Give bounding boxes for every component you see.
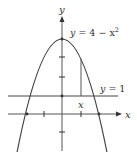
x-axis-label: x bbox=[125, 109, 131, 120]
y-axis-label: y bbox=[58, 4, 65, 15]
line-label: y = 1 bbox=[99, 83, 125, 94]
segment-label: x bbox=[78, 99, 84, 110]
curve-label: y = 4 − x2 bbox=[69, 26, 119, 38]
graph-figure: y x y = 1 y = 4 − x2 x bbox=[0, 0, 137, 159]
y-axis-arrow-icon bbox=[60, 16, 65, 22]
x-axis-arrow-icon bbox=[116, 112, 122, 117]
